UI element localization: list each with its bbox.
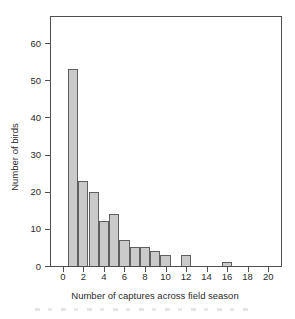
y-axis-tick xyxy=(45,117,50,118)
bar-x4 xyxy=(99,221,109,266)
y-axis-tick xyxy=(45,80,50,81)
y-axis-tick xyxy=(45,266,50,267)
y-tick-label: 20 xyxy=(15,186,41,197)
x-tick-label: 14 xyxy=(196,271,218,282)
y-tick-label: 10 xyxy=(15,223,41,234)
x-tick-label: 4 xyxy=(93,271,115,282)
bar-x10 xyxy=(160,255,170,266)
bar-x2 xyxy=(78,181,88,267)
y-tick-label: 60 xyxy=(15,38,41,49)
x-tick-label: 0 xyxy=(52,271,74,282)
x-tick-label: 10 xyxy=(155,271,177,282)
y-tick-label: 40 xyxy=(15,112,41,123)
y-axis-tick xyxy=(45,192,50,193)
x-tick-label: 12 xyxy=(175,271,197,282)
plot-area xyxy=(50,16,282,267)
bar-x16 xyxy=(222,262,232,266)
y-axis-tick xyxy=(45,155,50,156)
x-axis-label: Number of captures across field season xyxy=(40,290,270,301)
bar-x5 xyxy=(109,214,119,266)
x-tick-label: 6 xyxy=(113,271,135,282)
bar-x1 xyxy=(68,69,78,266)
x-tick-label: 8 xyxy=(134,271,156,282)
x-tick-label: 20 xyxy=(257,271,279,282)
bar-x12 xyxy=(181,255,191,266)
bar-x9 xyxy=(150,251,160,266)
x-tick-label: 16 xyxy=(216,271,238,282)
y-axis-tick xyxy=(45,229,50,230)
y-tick-label: 30 xyxy=(15,149,41,160)
bar-x3 xyxy=(89,192,99,266)
bar-x6 xyxy=(119,240,129,266)
x-tick-label: 2 xyxy=(72,271,94,282)
y-tick-label: 50 xyxy=(15,75,41,86)
histogram-figure: Number of birds Number of captures acros… xyxy=(0,0,295,319)
x-tick-label: 18 xyxy=(237,271,259,282)
y-tick-label: 0 xyxy=(15,261,41,272)
y-axis-tick xyxy=(45,43,50,44)
cropped-caption-fragment xyxy=(35,308,251,311)
bar-x7 xyxy=(130,247,140,266)
bar-x8 xyxy=(140,247,150,266)
